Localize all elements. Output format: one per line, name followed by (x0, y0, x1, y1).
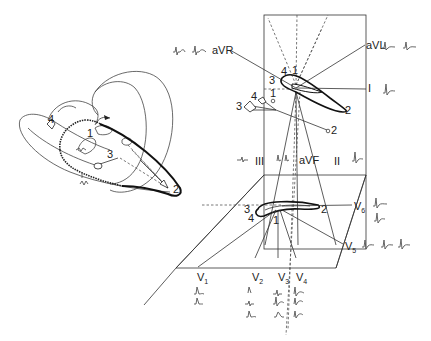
v5-waveform-icon (362, 240, 374, 249)
heart-label-1: 1 (87, 127, 93, 139)
frontal-vector-label-3: 3 (236, 100, 242, 112)
v1-waveform-icon (194, 287, 204, 294)
avr-waveform-icon (173, 47, 185, 55)
heart-label-4: 4 (48, 113, 54, 125)
v1-waveform-icon (194, 298, 203, 304)
iii-waveform-icon (237, 157, 248, 162)
horizontal-plane: 3 4 2 1 V1 V2 V3 V4 V5 V6 (144, 175, 410, 318)
lead-label-v4: V4 (296, 271, 307, 285)
lead-label-v5: V5 (345, 240, 356, 254)
heart-waveform-icon (80, 181, 88, 185)
lead-label-v1: V1 (197, 271, 208, 285)
lead-label-avf: aVF (299, 154, 319, 166)
i-waveform-icon (383, 84, 395, 95)
avf-waveform-icon (285, 155, 289, 161)
lead-label-v3: V3 (278, 271, 289, 285)
frontal-loop-label-4: 4 (281, 65, 287, 77)
frontal-vector-label-1: 1 (270, 87, 276, 99)
v5-waveform-icon (381, 240, 393, 249)
v3-waveform-icon (273, 297, 284, 306)
lead-label-v6: V6 (354, 200, 365, 214)
heart-waveform-icon (76, 148, 86, 151)
frontal-loop-label-3: 3 (269, 74, 275, 86)
frontal-vector-label-4: 4 (251, 90, 257, 102)
heart-label-2: 2 (173, 183, 179, 195)
v2-waveform-icon (246, 311, 256, 317)
horizontal-loop-label-2: 2 (321, 203, 327, 215)
v4-waveform-icon (294, 287, 304, 296)
v4-waveform-icon (294, 298, 303, 305)
ii-waveform-icon (352, 152, 363, 163)
heart-illustration: 4 1 3 2 (19, 71, 180, 195)
avl-waveform-icon (403, 42, 416, 50)
lead-label-v2: V2 (252, 271, 263, 285)
lead-label-i: I (368, 82, 371, 94)
v2-waveform-icon (245, 301, 254, 306)
lead-label-ii: II (334, 155, 340, 167)
lead-label-avr: aVR (212, 44, 233, 56)
lead-label-iii: III (255, 155, 264, 167)
v6-waveform-icon (373, 198, 387, 208)
v4-waveform-icon (294, 311, 303, 318)
avf-waveform-icon (277, 155, 281, 161)
v3-waveform-icon (273, 290, 282, 296)
avr-waveform-icon (192, 46, 206, 55)
heart-label-3: 3 (107, 148, 113, 160)
frontal-loop-label-1: 1 (292, 64, 298, 76)
vectorcardiogram-diagram: 4 1 3 2 3 4 1 2 (0, 0, 431, 341)
v2-waveform-icon (248, 287, 251, 293)
v6-waveform-icon (374, 213, 385, 223)
v3-waveform-icon (274, 312, 284, 317)
lead-label-avl: aVL (366, 39, 386, 51)
horizontal-loop-label-4: 4 (248, 212, 254, 224)
v5-waveform-icon (398, 239, 410, 249)
frontal-loop-label-2: 2 (345, 104, 351, 116)
frontal-vector-label-2: 2 (331, 124, 337, 136)
